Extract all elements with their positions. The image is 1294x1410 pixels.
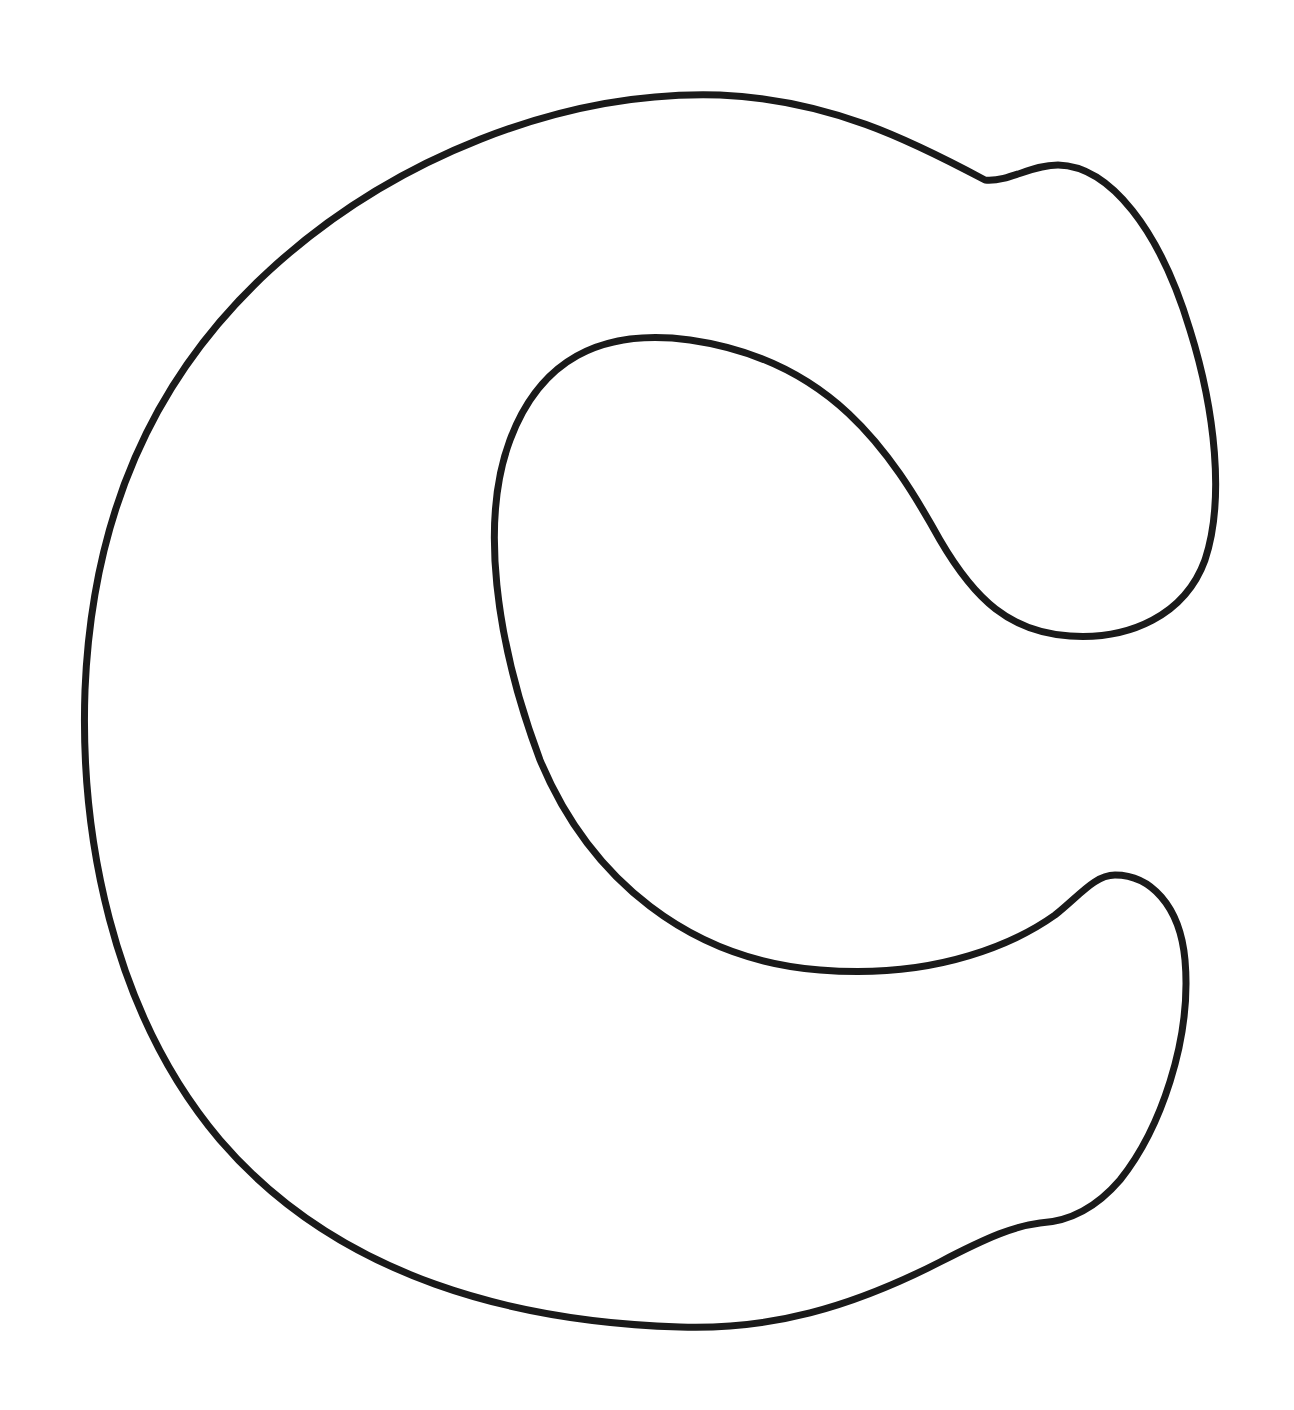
letter-c-shape: [84, 95, 1215, 1328]
coloring-page-canvas: C: [0, 0, 1294, 1410]
letter-c-outline: [0, 0, 1294, 1410]
